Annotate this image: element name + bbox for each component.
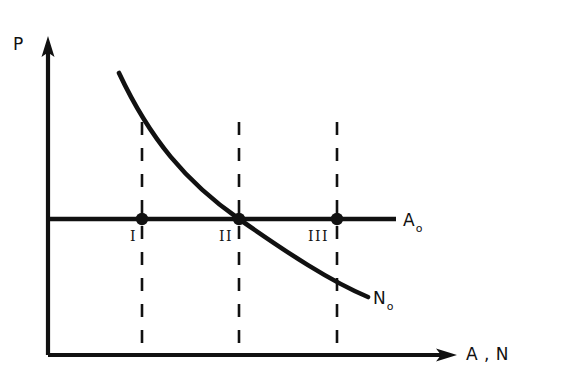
n0-label-base: N [373,288,386,308]
n0-label-subscript: o [387,300,394,313]
point-III [331,213,343,225]
region-label-one: I [130,229,137,243]
quantity-axis [48,349,457,362]
a0-label-base: A [403,210,415,230]
n0-curve-label: No [373,290,392,310]
point-II [233,213,245,225]
n0-curve [119,73,368,297]
diagram-canvas [0,0,568,388]
price-axis-label: P [13,36,24,53]
region-label-three: III [308,229,329,243]
point-I [136,213,148,225]
price-axis [42,36,55,355]
a0-curve-label: Ao [403,212,421,232]
region-label-two: II [219,229,233,243]
quantity-axis-label: A , N [466,346,509,363]
economics-diagram: P A , N Ao No I II III [0,0,568,388]
a0-label-subscript: o [416,222,423,235]
